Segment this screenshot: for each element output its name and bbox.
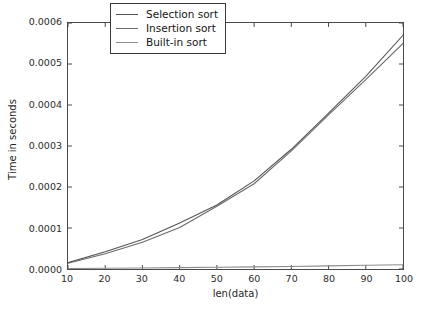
- legend-item: Built-in sort: [116, 35, 218, 49]
- x-tick-label: 70: [286, 274, 298, 284]
- legend-line-swatch: [116, 42, 138, 43]
- y-tick-label: 0.0002: [29, 183, 62, 193]
- legend-item-label: Insertion sort: [146, 22, 216, 34]
- y-tick-label: 0.0003: [29, 141, 62, 151]
- legend-item: Insertion sort: [116, 21, 218, 35]
- series-line-1: [68, 44, 403, 264]
- x-tick-label: 30: [136, 274, 148, 284]
- x-axis-tick-labels: 102030405060708090100: [67, 274, 404, 288]
- y-axis-title: Time in seconds: [7, 85, 18, 195]
- x-tick-label: 60: [248, 274, 260, 284]
- series-line-0: [68, 35, 403, 262]
- x-tick-label: 10: [61, 274, 73, 284]
- x-tick-label: 80: [323, 274, 335, 284]
- legend-item-label: Built-in sort: [146, 36, 207, 48]
- x-tick-label: 50: [211, 274, 223, 284]
- x-tick-label: 100: [395, 274, 413, 284]
- x-tick-label: 20: [98, 274, 110, 284]
- x-tick-label: 90: [361, 274, 373, 284]
- legend-line-swatch: [116, 28, 138, 29]
- legend-item: Selection sort: [116, 7, 218, 21]
- y-tick-label: 0.0000: [29, 265, 62, 275]
- legend-line-swatch: [116, 14, 138, 15]
- y-tick-label: 0.0005: [29, 59, 62, 69]
- series-line-2: [68, 265, 403, 269]
- x-tick-label: 40: [173, 274, 185, 284]
- y-tick-label: 0.0004: [29, 100, 62, 110]
- y-tick-label: 0.0001: [29, 224, 62, 234]
- x-axis-title: len(data): [67, 288, 404, 299]
- y-tick-label: 0.0006: [29, 17, 62, 27]
- chart-figure: 0.00000.00010.00020.00030.00040.00050.00…: [0, 0, 435, 313]
- plot-lines: [68, 23, 403, 269]
- chart-legend: Selection sortInsertion sortBuilt-in sor…: [110, 3, 226, 54]
- legend-item-label: Selection sort: [146, 8, 218, 20]
- plot-area: [67, 22, 404, 270]
